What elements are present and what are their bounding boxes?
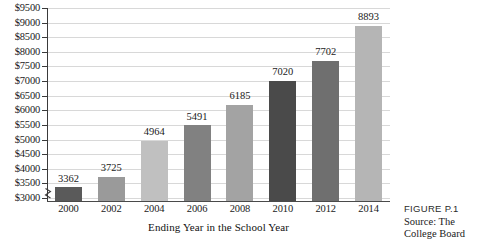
bar-slot: 5491 (184, 8, 211, 201)
x-axis-tick-label: 2002 (90, 204, 133, 215)
bar-value-label: 6185 (229, 91, 250, 102)
y-axis-tick-label: $8000 (15, 47, 40, 58)
bar-slot: 7702 (312, 8, 339, 201)
bar-slot: 3725 (98, 8, 125, 201)
bar (226, 105, 253, 201)
bar-slot: 4964 (141, 8, 168, 201)
y-axis-tick-label: $9000 (15, 17, 40, 28)
bar (355, 26, 382, 201)
bar (312, 61, 339, 201)
bar (141, 141, 168, 201)
y-axis-tick-label: $5500 (15, 120, 40, 131)
x-axis-tick-label: 2006 (176, 204, 219, 215)
bar-value-label: 3725 (101, 163, 122, 174)
bar-slot: 3362 (55, 8, 82, 201)
y-axis-tick-label: $3000 (15, 193, 40, 204)
bar (269, 81, 296, 202)
figure-caption: FIGURE P.1 Source: The College Board (404, 203, 489, 241)
figure-number: FIGURE P.1 (404, 203, 489, 215)
bar-value-label: 7702 (315, 47, 336, 58)
x-axis-tick-labels: 20002002200420062008201020122014 (47, 204, 390, 220)
figure-source: Source: The College Board (404, 216, 489, 241)
y-axis-tick-label: $7000 (15, 76, 40, 87)
bar-value-label: 7020 (272, 67, 293, 78)
x-axis-tick-label: 2012 (304, 204, 347, 215)
bar (98, 177, 125, 201)
bar-value-label: 4964 (144, 127, 165, 138)
bar (184, 125, 211, 201)
y-axis-tick-label: $6000 (15, 105, 40, 116)
y-axis-tick-label: $8500 (15, 32, 40, 43)
x-axis-line (47, 201, 390, 202)
x-axis-tick-label: 2000 (47, 204, 90, 215)
y-axis-tick-label: $9500 (15, 3, 40, 14)
y-axis-tick-label: $3500 (15, 178, 40, 189)
bar-slot: 8893 (355, 8, 382, 201)
bar-value-label: 5491 (187, 112, 208, 123)
y-axis-tick-label: $6500 (15, 90, 40, 101)
y-axis-tick-label: $7500 (15, 61, 40, 72)
x-axis-title: Ending Year in the School Year (47, 221, 390, 233)
figure-p1: $3000$3500$4000$4500$5000$5500$6000$6500… (0, 0, 489, 250)
x-axis-tick-label: 2008 (219, 204, 262, 215)
y-axis-tick-label: $5000 (15, 134, 40, 145)
x-axis-tick-label: 2010 (261, 204, 304, 215)
bar-series: 33623725496454916185702077028893 (47, 8, 390, 201)
y-axis-tick-label: $4000 (15, 164, 40, 175)
bar-slot: 6185 (226, 8, 253, 201)
x-axis-tick-label: 2014 (347, 204, 390, 215)
bar-value-label: 8893 (358, 12, 379, 23)
y-axis-tick-label: $4500 (15, 149, 40, 160)
x-axis-tick-label: 2004 (133, 204, 176, 215)
bar (55, 187, 82, 201)
bar-slot: 7020 (269, 8, 296, 201)
bar-value-label: 3362 (58, 174, 79, 185)
